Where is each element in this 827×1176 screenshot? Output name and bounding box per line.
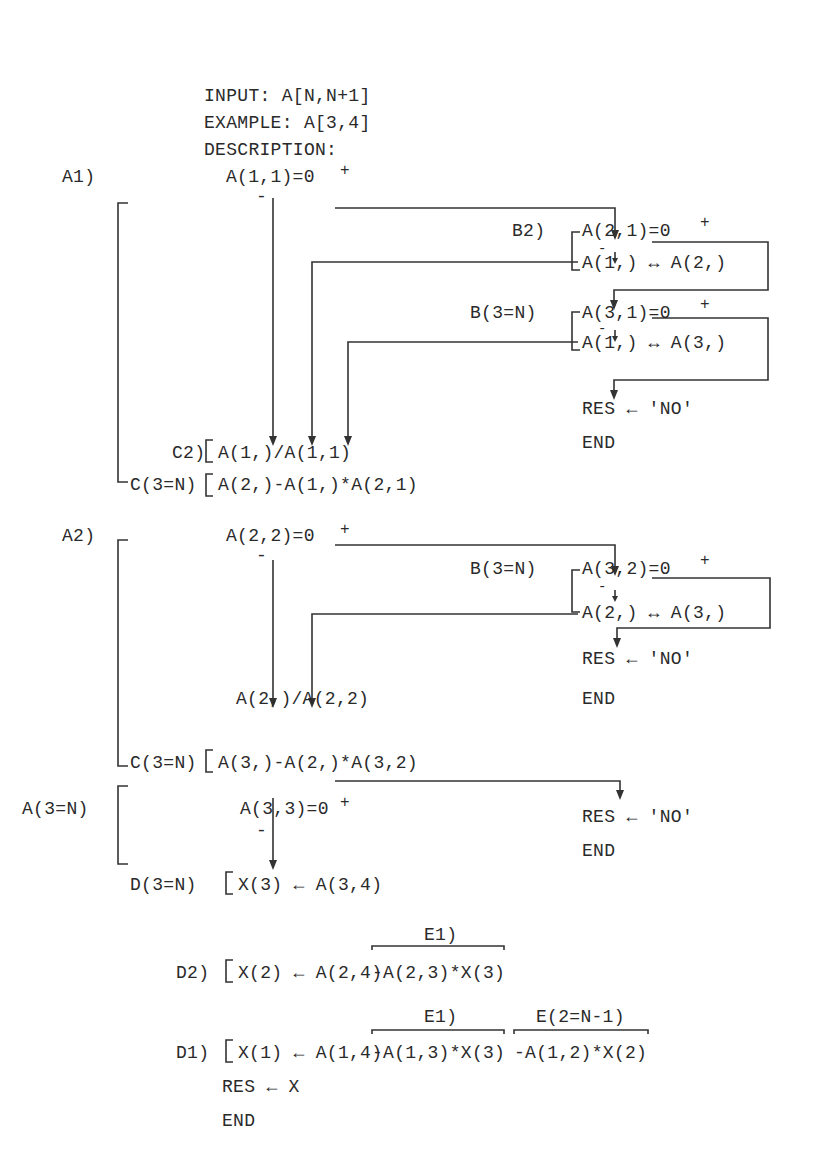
a3-res: RES ← 'NO' [582,806,693,828]
b2-plus: + [700,212,710,234]
d1-e1-expr: -A(1,3)*X(3) [372,1042,505,1064]
a1-plus: + [340,160,350,182]
document-page: INPUT: A[N,N+1] EXAMPLE: A[3,4] DESCRIPT… [0,0,827,1176]
c3-label: C(3=N) [130,474,197,496]
a2-c3-expr: A(3,)-A(2,)*A(3,2) [218,752,418,774]
a1-res: RES ← 'NO' [582,398,693,420]
a2-div: A(2,)/A(2,2) [236,688,369,710]
a3-bracket [118,786,128,864]
flowchart-lines [0,0,827,1176]
b3-test: A(3,1)=0 [582,302,671,324]
a1-minus: - [256,186,267,208]
a3-plus: + [340,792,350,814]
a1-test: A(1,1)=0 [226,166,315,188]
c2-label: C2) [172,442,205,464]
c2-expr: A(1,)/A(1,1) [218,442,351,464]
a2-minus: - [256,545,267,567]
b2-test: A(2,1)=0 [582,220,671,242]
d1-label: D1) [176,1042,209,1064]
b3-swap: A(1,) ↔ A(3,) [582,332,726,354]
a3-minus: - [256,820,267,842]
b2-swap: A(1,) ↔ A(2,) [582,252,726,274]
d3-expr: X(3) ← A(3,4) [238,874,382,896]
d3-label: D(3=N) [130,874,197,896]
d1-e2-expr: -A(1,2)*X(2) [514,1042,647,1064]
a2-bracket [118,540,128,766]
a3-label: A(3=N) [22,798,89,820]
d1-expr: X(1) ← A(1,4) [238,1042,382,1064]
description-line: DESCRIPTION: [204,139,337,161]
a1-end: END [582,432,615,454]
b3-plus: + [700,294,710,316]
a2-c3-label: C(3=N) [130,752,197,774]
a3-end: END [582,840,615,862]
a2-end: END [582,688,615,710]
c3-expr: A(2,)-A(1,)*A(2,1) [218,474,418,496]
a2-b3-plus: + [700,550,710,572]
a2-test: A(2,2)=0 [226,525,315,547]
d2-expr: X(2) ← A(2,4) [238,962,382,984]
a2-b3-label: B(3=N) [470,558,537,580]
d2-e1-label: E1) [424,924,457,946]
a1-label: A1) [62,166,95,188]
a2-b3-test: A(3,2)=0 [582,558,671,580]
b3-label: B(3=N) [470,302,537,324]
a2-label: A2) [62,525,95,547]
a2-b3-minus: - [598,576,607,598]
a1-bracket [118,203,128,482]
b2-label: B2) [512,220,545,242]
d1-e2-label: E(2=N-1) [536,1006,625,1028]
example-line: EXAMPLE: A[3,4] [204,112,371,134]
final-res: RES ← X [222,1076,300,1098]
input-line: INPUT: A[N,N+1] [204,85,371,107]
d1-e1-label: E1) [424,1006,457,1028]
a2-b3-swap: A(2,) ↔ A(3,) [582,602,726,624]
d2-e1-expr: -A(2,3)*X(3) [372,962,505,984]
d2-label: D2) [176,962,209,984]
a3-test: A(3,3)=0 [240,798,329,820]
final-end: END [222,1110,255,1132]
a2-res: RES ← 'NO' [582,648,693,670]
a2-plus: + [340,519,350,541]
